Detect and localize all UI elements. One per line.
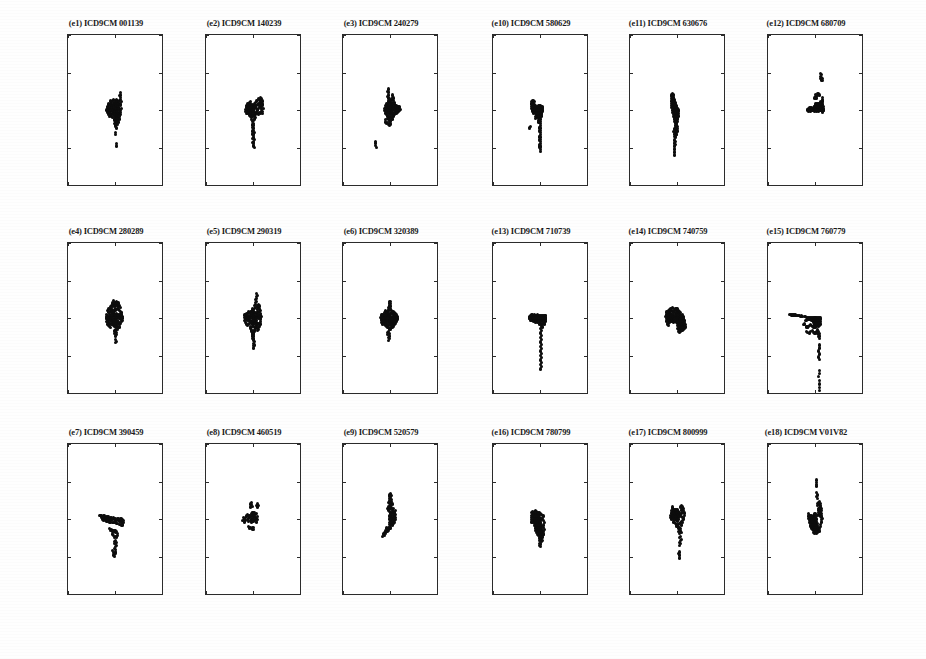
x-tick-mark — [862, 390, 863, 393]
plot-area-e12: −10110.50−0.5−1 — [767, 34, 863, 186]
y-tick-mark-right — [859, 243, 862, 244]
y-tick-mark — [343, 594, 346, 595]
panel-e15: (e15) ICD9CM 760779−10110.50−0.5−1 — [747, 226, 865, 424]
y-tick-mark-right — [584, 281, 587, 282]
y-tick-mark-right — [859, 519, 862, 520]
plot-area-e13: −10110.50−0.5−1 — [492, 242, 588, 394]
panel-e13: (e13) ICD9CM 710739−10110.50−0.5−1 — [472, 226, 590, 424]
x-tick-mark — [677, 182, 678, 185]
y-tick-mark — [68, 482, 71, 483]
x-tick-mark-top — [587, 444, 588, 447]
y-tick-mark-right — [297, 444, 300, 445]
x-tick-mark-top — [162, 243, 163, 246]
x-tick-mark — [862, 182, 863, 185]
data-point — [115, 126, 118, 129]
y-tick-mark — [768, 594, 771, 595]
x-tick-mark — [815, 182, 816, 185]
y-tick-mark-right — [859, 557, 862, 558]
y-tick-mark — [768, 482, 771, 483]
y-tick-mark-right — [721, 35, 724, 36]
y-tick-mark-right — [859, 393, 862, 394]
y-tick-mark-right — [584, 148, 587, 149]
data-point — [678, 556, 681, 559]
plot-area-e16: −10110.50−0.5−1 — [492, 443, 588, 595]
x-tick-mark-top — [115, 444, 116, 447]
data-point — [113, 552, 116, 555]
y-tick-mark — [343, 35, 346, 36]
y-tick-mark-right — [584, 444, 587, 445]
y-tick-mark-right — [434, 594, 437, 595]
data-point — [821, 79, 824, 82]
y-tick-mark-right — [297, 557, 300, 558]
x-tick-mark — [115, 591, 116, 594]
y-tick-mark-right — [721, 444, 724, 445]
x-tick-mark — [300, 182, 301, 185]
x-tick-mark-top — [300, 444, 301, 447]
x-tick-mark-top — [862, 243, 863, 246]
data-point — [683, 319, 686, 322]
data-point — [817, 375, 820, 378]
data-point — [114, 133, 117, 136]
y-tick-mark-right — [584, 318, 587, 319]
scatter-panel-figure: (e1) ICD9CM 001139−10110.50−0.5−1(e2) IC… — [0, 0, 926, 659]
y-tick-mark-right — [159, 519, 162, 520]
x-tick-mark-top — [390, 35, 391, 38]
data-point — [672, 93, 675, 96]
data-point — [110, 313, 113, 316]
y-tick-mark-right — [584, 185, 587, 186]
y-tick-mark-right — [584, 482, 587, 483]
x-tick-mark — [390, 390, 391, 393]
y-tick-mark-right — [434, 35, 437, 36]
data-point — [532, 99, 535, 102]
panel-title-e17: (e17) ICD9CM 800999 — [593, 427, 743, 437]
data-point — [820, 509, 823, 512]
data-point — [261, 110, 264, 113]
data-point — [249, 502, 252, 505]
y-tick-mark-right — [159, 110, 162, 111]
data-point — [528, 316, 531, 319]
panel-title-e1: (e1) ICD9CM 001139 — [31, 18, 181, 28]
y-tick-mark — [768, 148, 771, 149]
panel-e5: (e5) ICD9CM 290319−10110.50−0.5−1 — [185, 226, 303, 424]
data-point — [394, 518, 397, 521]
y-tick-mark — [493, 110, 496, 111]
y-tick-mark — [206, 393, 209, 394]
x-tick-mark — [724, 182, 725, 185]
x-tick-mark — [390, 182, 391, 185]
y-tick-mark-right — [859, 281, 862, 282]
y-tick-mark-right — [584, 243, 587, 244]
panel-title-e9: (e9) ICD9CM 520579 — [306, 427, 456, 437]
y-tick-mark-right — [584, 110, 587, 111]
data-point — [253, 343, 256, 346]
y-tick-mark — [68, 110, 71, 111]
y-tick-mark-right — [721, 281, 724, 282]
x-tick-mark — [587, 390, 588, 393]
y-tick-mark-right — [859, 110, 862, 111]
y-tick-mark — [68, 393, 71, 394]
panel-e4: (e4) ICD9CM 280289−10110.50−0.5−1 — [47, 226, 165, 424]
data-point — [814, 102, 817, 105]
data-point — [121, 319, 124, 322]
y-tick-mark-right — [584, 35, 587, 36]
y-tick-mark — [630, 318, 633, 319]
panel-title-e8: (e8) ICD9CM 460519 — [169, 427, 319, 437]
y-tick-mark — [630, 73, 633, 74]
x-tick-mark-top — [300, 35, 301, 38]
data-point — [115, 144, 118, 147]
panel-title-e11: (e11) ICD9CM 630676 — [593, 18, 743, 28]
y-tick-mark — [768, 243, 771, 244]
x-tick-mark-top — [815, 444, 816, 447]
data-point — [252, 526, 255, 529]
y-tick-mark — [630, 519, 633, 520]
y-tick-mark-right — [584, 356, 587, 357]
y-tick-mark — [768, 318, 771, 319]
y-tick-mark-right — [297, 110, 300, 111]
panel-title-e3: (e3) ICD9CM 240279 — [306, 18, 456, 28]
plot-area-e10: −10110.50−0.5−1 — [492, 34, 588, 186]
data-point — [245, 312, 248, 315]
y-tick-mark — [768, 444, 771, 445]
x-tick-mark — [115, 390, 116, 393]
data-point — [672, 520, 675, 523]
data-point — [112, 321, 115, 324]
y-tick-mark-right — [159, 185, 162, 186]
